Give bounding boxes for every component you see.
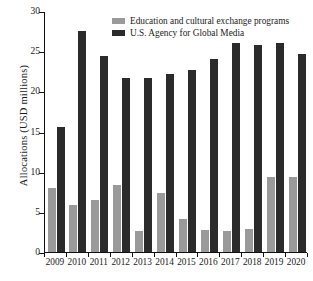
bar-usagm-2019: [276, 43, 284, 252]
x-label-2019: 2019: [263, 257, 285, 267]
bar-education-2014: [157, 193, 165, 252]
bar-group-2019: [266, 12, 288, 252]
legend-label-education: Education and cultural exchange programs: [130, 15, 289, 27]
bar-group-2017: [222, 12, 244, 252]
y-tick-label: 25: [31, 45, 41, 58]
x-label-2017: 2017: [219, 257, 241, 267]
bars-layer: [45, 12, 307, 252]
x-label-2020: 2020: [285, 257, 307, 267]
bar-usagm-2016: [210, 59, 218, 252]
x-label-2012: 2012: [110, 257, 132, 267]
legend-item-usagm: U.S. Agency for Global Media: [112, 27, 289, 39]
bar-group-2015: [178, 12, 200, 252]
x-label-2016: 2016: [197, 257, 219, 267]
x-label-2018: 2018: [241, 257, 263, 267]
legend-swatch-icon-usagm: [112, 30, 125, 36]
x-tick-mark: [307, 253, 308, 257]
bar-education-2020: [289, 177, 297, 252]
bar-education-2019: [267, 177, 275, 252]
bar-education-2016: [201, 230, 209, 252]
legend-label-usagm: U.S. Agency for Global Media: [130, 27, 244, 39]
x-label-2010: 2010: [66, 257, 88, 267]
bar-group-2010: [68, 12, 90, 252]
bar-usagm-2018: [254, 45, 262, 252]
y-tick-label: 30: [31, 5, 41, 18]
y-tick-label: 10: [31, 166, 41, 179]
x-axis-labels: 2009201020112012201320142015201620172018…: [44, 257, 307, 273]
x-label-2014: 2014: [154, 257, 176, 267]
bar-usagm-2013: [144, 78, 152, 252]
x-label-2011: 2011: [88, 257, 110, 267]
bar-chart: Allocations (USD millions) 051015202530 …: [0, 0, 313, 281]
bar-education-2010: [69, 205, 77, 252]
y-tick-label: 15: [31, 126, 41, 139]
plot-area: 051015202530: [44, 12, 307, 253]
bar-education-2017: [223, 231, 231, 252]
bar-group-2011: [90, 12, 112, 252]
bar-group-2009: [47, 12, 69, 252]
bar-group-2020: [288, 12, 310, 252]
bar-education-2009: [48, 188, 56, 252]
bar-group-2013: [134, 12, 156, 252]
chart-legend: Education and cultural exchange programs…: [112, 15, 289, 39]
bar-usagm-2015: [188, 70, 196, 252]
y-tick-label: 20: [31, 85, 41, 98]
bar-usagm-2014: [166, 74, 174, 252]
y-tick-label: 5: [35, 206, 40, 219]
bar-usagm-2010: [78, 31, 86, 252]
bar-education-2018: [245, 229, 253, 252]
bar-education-2011: [91, 200, 99, 252]
legend-item-education: Education and cultural exchange programs: [112, 15, 289, 27]
bar-education-2015: [179, 219, 187, 252]
x-label-2015: 2015: [176, 257, 198, 267]
x-label-2009: 2009: [44, 257, 66, 267]
bar-usagm-2020: [298, 54, 306, 252]
legend-swatch-icon-education: [112, 18, 125, 24]
bar-education-2013: [135, 231, 143, 252]
y-tick-label: 0: [35, 246, 40, 259]
y-axis-title: Allocations (USD millions): [18, 51, 29, 201]
bar-usagm-2009: [57, 127, 65, 252]
bar-group-2016: [200, 12, 222, 252]
bar-group-2014: [156, 12, 178, 252]
bar-usagm-2011: [100, 56, 108, 252]
x-label-2013: 2013: [132, 257, 154, 267]
bar-education-2012: [113, 185, 121, 252]
bar-usagm-2017: [232, 43, 240, 252]
bar-usagm-2012: [122, 78, 130, 252]
bar-group-2018: [244, 12, 266, 252]
bar-group-2012: [112, 12, 134, 252]
